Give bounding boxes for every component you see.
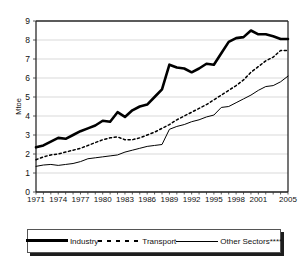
y-axis-tick-label: 7 [18, 54, 30, 64]
y-axis-tick-label: 5 [18, 92, 30, 102]
y-axis-tick-label: 3 [18, 130, 30, 140]
legend-item[interactable]: Transport [98, 237, 176, 246]
x-axis-tick-label: 2001 [243, 195, 273, 204]
line-chart-svg [0, 0, 304, 212]
y-axis-tick-label: 1 [18, 168, 30, 178]
legend-item-label: Transport [142, 237, 176, 246]
chart-legend: IndustryTransportOther Sectors**** [27, 229, 281, 253]
legend-item-label: Other Sectors**** [220, 237, 282, 246]
y-axis-tick-label: 9 [18, 16, 30, 26]
y-axis-tick-label: 4 [18, 111, 30, 121]
legend-item[interactable]: Other Sectors**** [176, 237, 282, 246]
legend-item-label: Industry [70, 237, 98, 246]
plot-area [0, 0, 304, 212]
thick-solid-swatch [26, 238, 68, 244]
dotted-swatch [98, 238, 140, 244]
legend-items: IndustryTransportOther Sectors**** [28, 230, 280, 252]
chart-figure: Mtoe 0123456789 197119741977198019831986… [0, 0, 304, 270]
x-axis-tick-label: 2005 [273, 195, 303, 204]
plot-background [36, 21, 288, 192]
y-axis-tick-label: 2 [18, 149, 30, 159]
y-axis-tick-label: 8 [18, 35, 30, 45]
legend-item[interactable]: Industry [26, 237, 98, 246]
y-axis-tick-label: 6 [18, 73, 30, 83]
thin-solid-swatch [176, 238, 218, 244]
